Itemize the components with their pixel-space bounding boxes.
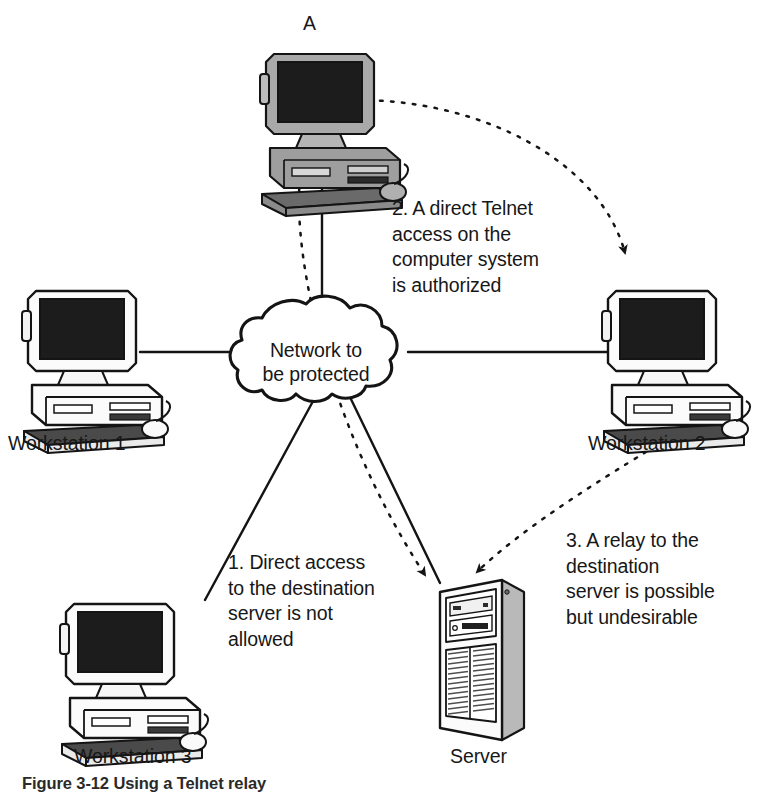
node-server-label: Server — [450, 745, 507, 767]
annotation-1: 1. Direct access to the destination serv… — [228, 550, 418, 652]
figure-caption: Figure 3-12 Using a Telnet relay — [22, 774, 266, 793]
annotation-3: 3. A relay to the destination server is … — [566, 528, 761, 630]
annotation-2: 2. A direct Telnet access on the compute… — [392, 196, 607, 298]
